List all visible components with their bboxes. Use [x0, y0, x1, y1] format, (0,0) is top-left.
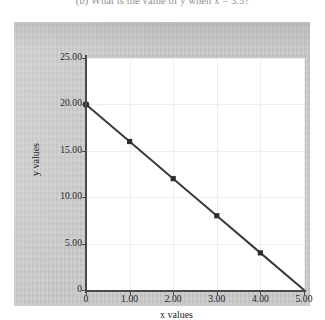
data-point-marker: [214, 213, 219, 218]
x-axis-title-text: x values: [160, 309, 193, 320]
x-tick-mark: [86, 292, 87, 295]
data-point-marker: [127, 139, 132, 144]
x-axis-title: x values: [14, 309, 325, 320]
plot-area: [86, 58, 304, 290]
y-tick-mark: [82, 151, 86, 152]
x-tick-mark: [173, 292, 174, 295]
y-tick-mark: [82, 290, 86, 291]
y-tick-mark: [82, 58, 86, 59]
x-tick-label: 4.00: [235, 294, 285, 304]
x-tick-label: 0: [61, 294, 111, 304]
y-tick-mark: [82, 197, 86, 198]
data-series-line: [86, 58, 304, 290]
x-tick-label: 2.00: [148, 294, 198, 304]
y-tick-label: 15.00: [24, 145, 82, 155]
y-tick-mark: [82, 104, 86, 105]
line-path: [86, 104, 304, 290]
x-tick-mark: [130, 292, 131, 295]
y-axis-ticks: 05.0010.0015.0020.0025.00: [18, 22, 82, 306]
x-tick-label: 3.00: [192, 294, 242, 304]
data-point-marker: [258, 250, 263, 255]
y-tick-label: 5.00: [24, 238, 82, 248]
y-tick-label: 20.00: [24, 98, 82, 108]
x-tick-mark: [260, 292, 261, 295]
data-point-marker: [171, 176, 176, 181]
x-tick-label: 1.00: [105, 294, 155, 304]
y-axis-spine: [85, 55, 87, 293]
x-tick-label: 5.00: [279, 294, 325, 304]
figure-panel: y values x values 05.0010.0015.0020.0025…: [14, 22, 310, 306]
gridline-vertical: [304, 58, 305, 290]
y-tick-label: 25.00: [24, 52, 82, 62]
y-axis-title: y values: [30, 125, 41, 195]
x-axis-spine: [85, 290, 306, 292]
caption-text: (b) What is the value of y when x = 3.5?: [76, 0, 249, 6]
figure-caption: (b) What is the value of y when x = 3.5?: [0, 0, 325, 9]
x-tick-mark: [217, 292, 218, 295]
x-tick-mark: [304, 292, 305, 295]
y-tick-label: 0: [24, 284, 82, 294]
y-tick-label: 10.00: [24, 191, 82, 201]
y-tick-mark: [82, 244, 86, 245]
